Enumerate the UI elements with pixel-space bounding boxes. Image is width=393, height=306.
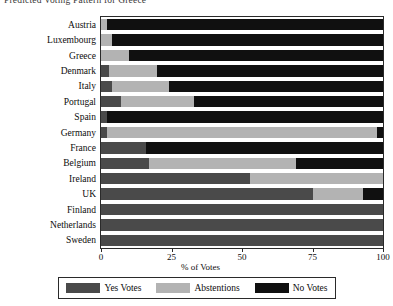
bar-row	[101, 19, 383, 31]
bar-rows	[101, 17, 383, 248]
bar-segment-abstentions	[313, 188, 364, 200]
bar-segment-no	[363, 188, 383, 200]
y-axis-label: Belgium	[0, 158, 96, 168]
bar-row	[101, 81, 383, 93]
legend-label: Yes Votes	[104, 283, 141, 293]
bar-row	[101, 127, 383, 139]
bar-segment-yes	[101, 65, 109, 77]
chart-title-clipped: Predicted Voting Pattern for Greece	[0, 0, 393, 6]
y-axis-label: Ireland	[0, 174, 96, 184]
bar-segment-no	[157, 65, 383, 77]
y-axis-label: Sweden	[0, 235, 96, 245]
bar-segment-abstentions	[121, 96, 194, 108]
y-axis-label: UK	[0, 189, 96, 199]
bar-segment-yes	[101, 204, 383, 216]
bar-row	[101, 188, 383, 200]
bar-row	[101, 235, 383, 247]
bar-row	[101, 34, 383, 46]
legend-entry: Yes Votes	[66, 283, 141, 293]
y-axis-label: Netherlands	[0, 220, 96, 230]
x-axis-tick-label: 50	[238, 252, 247, 262]
bar-segment-no	[112, 34, 383, 46]
bar-segment-no	[146, 142, 383, 154]
legend-entry: No Votes	[255, 283, 328, 293]
x-axis-tick-label: 25	[167, 252, 176, 262]
y-axis-label: Denmark	[0, 66, 96, 76]
x-axis-tick-label: 100	[376, 252, 390, 262]
y-axis-label: Portugal	[0, 97, 96, 107]
legend-swatch	[255, 283, 289, 293]
y-axis-label: Luxembourg	[0, 35, 96, 45]
bar-row	[101, 96, 383, 108]
bar-segment-yes	[101, 81, 112, 93]
legend-label: No Votes	[293, 283, 328, 293]
x-axis-title: % of Votes	[0, 262, 393, 272]
bar-segment-no	[296, 158, 383, 170]
bar-segment-no	[194, 96, 383, 108]
bar-segment-yes	[101, 96, 121, 108]
y-axis-label: Austria	[0, 20, 96, 30]
bar-row	[101, 142, 383, 154]
bar-segment-no	[107, 19, 383, 31]
y-axis-label: Spain	[0, 112, 96, 122]
y-axis-labels: AustriaLuxembourgGreeceDenmarkItalyPortu…	[0, 17, 96, 248]
bar-segment-no	[129, 50, 383, 62]
bar-segment-abstentions	[101, 34, 112, 46]
x-axis-tick-label: 75	[308, 252, 317, 262]
bar-segment-abstentions	[250, 173, 383, 185]
y-axis-label: Greece	[0, 51, 96, 61]
bar-row	[101, 219, 383, 231]
bar-row	[101, 204, 383, 216]
bar-segment-yes	[101, 219, 383, 231]
bar-row	[101, 111, 383, 123]
chart-title: Predicted Voting Pattern for Greece	[0, 0, 393, 6]
x-axis-tick-label: 0	[99, 252, 104, 262]
bar-segment-abstentions	[112, 81, 168, 93]
bar-segment-no	[377, 127, 383, 139]
y-axis-label: Germany	[0, 128, 96, 138]
legend-entry: Abstentions	[156, 283, 239, 293]
bar-segment-no	[107, 111, 383, 123]
bar-row	[101, 65, 383, 77]
chart-legend: Yes VotesAbstentionsNo Votes	[58, 277, 336, 299]
bar-segment-abstentions	[149, 158, 296, 170]
bar-segment-yes	[101, 142, 146, 154]
bar-segment-abstentions	[109, 65, 157, 77]
legend-label: Abstentions	[194, 283, 239, 293]
y-axis-label: Finland	[0, 205, 96, 215]
bar-segment-yes	[101, 158, 149, 170]
bar-row	[101, 50, 383, 62]
y-axis-label: Italy	[0, 81, 96, 91]
bar-segment-yes	[101, 235, 383, 247]
bar-segment-yes	[101, 188, 313, 200]
bar-segment-no	[169, 81, 383, 93]
y-axis-label: France	[0, 143, 96, 153]
legend-swatch	[66, 283, 100, 293]
bar-segment-abstentions	[101, 50, 129, 62]
bar-row	[101, 173, 383, 185]
bar-segment-abstentions	[107, 127, 378, 139]
legend-swatch	[156, 283, 190, 293]
bar-segment-yes	[101, 173, 250, 185]
bar-row	[101, 158, 383, 170]
chart-figure: Predicted Voting Pattern for Greece Aust…	[0, 0, 393, 306]
